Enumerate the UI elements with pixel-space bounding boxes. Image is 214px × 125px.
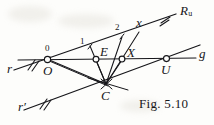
figure-5-10: r r′ Ru g 0 1 2 x O E X U C Fig. 5.10 xyxy=(0,0,214,125)
label-ray-Ru: Ru xyxy=(180,4,192,18)
label-line-g: g xyxy=(199,47,206,60)
point-marker-O xyxy=(44,56,50,62)
point-marker-X xyxy=(119,56,125,62)
label-ray-Ru-subscript: u xyxy=(188,9,192,18)
label-line-r: r xyxy=(7,62,12,75)
label-point-O: O xyxy=(43,64,52,77)
label-point-E: E xyxy=(100,45,108,58)
point-marker-U xyxy=(164,56,170,62)
label-tick-x: x xyxy=(136,16,142,29)
pencil-C-to-X xyxy=(106,60,122,84)
figure-caption: Fig. 5.10 xyxy=(139,97,188,110)
label-tick-1: 1 xyxy=(80,37,85,46)
label-point-C: C xyxy=(101,89,110,102)
label-ray-Ru-base: R xyxy=(180,3,188,18)
label-point-U: U xyxy=(161,63,170,76)
label-line-r-prime: r′ xyxy=(18,100,26,113)
segment-O-to-C xyxy=(47,60,108,86)
label-tick-2: 2 xyxy=(115,23,120,32)
label-tick-0: 0 xyxy=(45,44,50,53)
point-marker-E xyxy=(93,56,99,62)
label-point-X: X xyxy=(127,46,135,59)
